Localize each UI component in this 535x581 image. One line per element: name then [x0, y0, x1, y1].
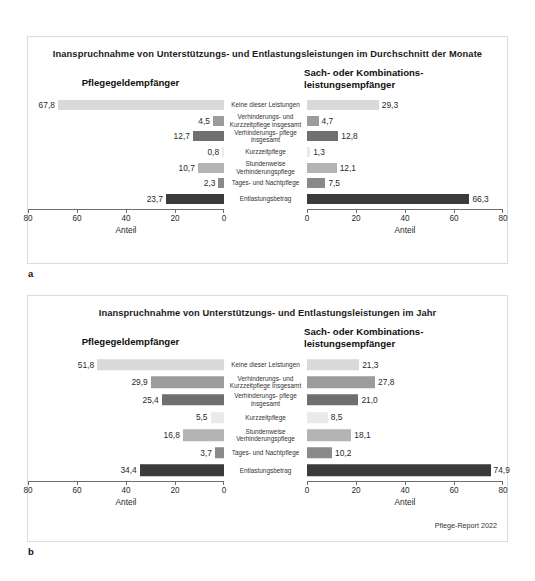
bar-right	[307, 394, 358, 406]
bar-value-right: 10,2	[335, 448, 351, 458]
panel-b-right-heading: Sach- oder Kombinations-leistungsempfäng…	[304, 326, 454, 349]
panel-b-axes: 806040200Anteil 020406080Anteil	[28, 481, 507, 515]
left-series-cell: 10,7	[28, 160, 224, 176]
bar-right	[307, 447, 332, 459]
axis-tick	[126, 209, 127, 213]
bar-value-left: 67,8	[39, 100, 55, 110]
axis-tick	[502, 209, 503, 213]
bar-left	[162, 394, 224, 406]
axis-tick	[77, 209, 78, 213]
left-series-cell: 0,8	[28, 144, 224, 160]
right-series-cell: 12,1	[307, 160, 503, 176]
bar-left	[215, 447, 224, 459]
bar-right	[307, 100, 379, 110]
category-label: Tages- und Nachtpflege	[224, 175, 307, 191]
bar-value-left: 12,7	[174, 131, 190, 141]
axis-tick-label: 80	[498, 214, 507, 223]
axis-tick	[28, 209, 29, 213]
axis-tick	[223, 481, 224, 485]
axis-tick	[356, 481, 357, 485]
category-label: Verhinderungs- und Kurzzeitpflege insges…	[224, 374, 307, 392]
axis-tick-label: 80	[23, 214, 32, 223]
bar-value-left: 3,7	[200, 448, 212, 458]
panel-b-bar-rows: 51,8Keine dieser Leistungen21,329,9Verhi…	[28, 356, 507, 479]
bar-value-right: 1,3	[313, 147, 325, 157]
left-series-cell: 67,8	[28, 97, 224, 113]
axis-tick-label: 0	[305, 214, 310, 223]
axis-tick-label: 20	[170, 214, 179, 223]
bar-left	[151, 377, 224, 389]
axis-title: Anteil	[28, 497, 224, 507]
axis-tick	[405, 481, 406, 485]
bar-value-left: 5,5	[196, 413, 208, 423]
bar-value-right: 29,3	[382, 100, 398, 110]
category-label: Kurzzeitpflege	[224, 409, 307, 427]
right-series-cell: 12,8	[307, 128, 503, 144]
axis-title: Anteil	[307, 225, 503, 235]
bar-row: 34,4Entlastungsbetrag74,9	[28, 462, 507, 480]
right-series-cell: 10,2	[307, 444, 503, 462]
bar-left	[58, 100, 224, 110]
panel-a-right-heading: Sach- oder Kombinations-leistungsempfäng…	[304, 67, 454, 90]
panel-letter-b: b	[28, 546, 34, 557]
bar-row: 16,8Stundenweise Verhinderungspflege18,1	[28, 426, 507, 444]
bar-right	[307, 429, 351, 441]
bar-row: 0,8Kurzzeitpflege1,3	[28, 144, 507, 160]
panel-b-left-axis: 806040200Anteil	[28, 481, 224, 515]
bar-right	[307, 147, 310, 157]
right-series-cell: 1,3	[307, 144, 503, 160]
bar-left	[183, 429, 224, 441]
bar-left	[213, 116, 224, 126]
left-series-cell: 4,5	[28, 113, 224, 129]
axis-tick-label: 40	[400, 214, 409, 223]
bar-left	[166, 194, 224, 204]
axis-tick-label: 40	[121, 486, 130, 495]
bar-left	[97, 359, 224, 371]
category-label: Entlastungsbetrag	[224, 462, 307, 480]
bar-value-right: 12,1	[340, 163, 356, 173]
bar-row: 10,7Stundenweise Verhinderungspflege12,1	[28, 160, 507, 176]
bar-value-left: 29,9	[131, 377, 147, 387]
left-series-cell: 12,7	[28, 128, 224, 144]
left-series-cell: 5,5	[28, 409, 224, 427]
right-series-cell: 74,9	[307, 462, 503, 480]
axis-tick-label: 60	[449, 214, 458, 223]
axis-tick-label: 20	[351, 214, 360, 223]
bar-right	[307, 178, 325, 188]
bar-value-right: 12,8	[341, 131, 357, 141]
panel-b-left-heading: Pflegegeldempfänger	[28, 336, 233, 347]
axis-tick	[454, 209, 455, 213]
axis-tick	[307, 209, 308, 213]
right-series-cell: 27,8	[307, 374, 503, 392]
bar-value-right: 27,8	[378, 377, 394, 387]
bar-value-right: 66,3	[472, 194, 488, 204]
left-series-cell: 3,7	[28, 444, 224, 462]
axis-title: Anteil	[28, 225, 224, 235]
panel-a-column-headings: Pflegegeldempfänger Sach- oder Kombinati…	[28, 67, 507, 97]
bar-row: 12,7Verhinderungs- pflege insgesamt12,8	[28, 128, 507, 144]
axis-tick-label: 0	[222, 214, 227, 223]
category-label: Tages- und Nachtpflege	[224, 444, 307, 462]
panel-letter-a: a	[28, 268, 33, 279]
right-series-cell: 8,5	[307, 409, 503, 427]
panel-b-right-axis: 020406080Anteil	[307, 481, 503, 515]
category-label: Keine dieser Leistungen	[224, 97, 307, 113]
axis-tick	[502, 481, 503, 485]
figure-page: Inanspruchnahme von Unterstützungs- und …	[0, 0, 535, 581]
bar-right	[307, 377, 375, 389]
right-series-cell: 21,0	[307, 391, 503, 409]
bar-left	[211, 412, 224, 424]
bar-left	[222, 147, 224, 157]
axis-tick	[356, 209, 357, 213]
category-label: Stundenweise Verhinderungspflege	[224, 160, 307, 176]
left-series-cell: 51,8	[28, 356, 224, 374]
left-series-cell: 16,8	[28, 426, 224, 444]
right-series-cell: 4,7	[307, 113, 503, 129]
bar-value-left: 25,4	[142, 395, 158, 405]
bar-value-right: 4,7	[322, 116, 334, 126]
axis-tick-label: 80	[23, 486, 32, 495]
source-note: Pflege-Report 2022	[435, 521, 497, 530]
bar-row: 5,5Kurzzeitpflege8,5	[28, 409, 507, 427]
axis-tick-label: 60	[449, 486, 458, 495]
panel-a-left-heading: Pflegegeldempfänger	[28, 77, 233, 88]
